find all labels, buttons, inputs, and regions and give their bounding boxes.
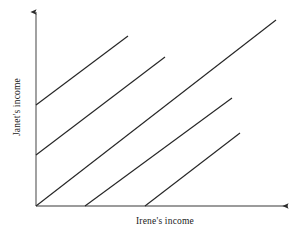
- indifference-curve-4: [85, 98, 232, 206]
- indifference-curve-5: [145, 133, 240, 206]
- indifference-curve-2: [36, 57, 165, 155]
- indifference-curves-group: [36, 20, 276, 206]
- indifference-curve-1: [36, 36, 128, 105]
- y-axis-label: Janet's income: [12, 52, 22, 162]
- indifference-curve-3: [36, 20, 276, 206]
- x-axis-label: Irene's income: [0, 216, 308, 226]
- plot-area: [0, 0, 308, 235]
- indifference-curve-figure: Irene's income Janet's income: [0, 0, 308, 235]
